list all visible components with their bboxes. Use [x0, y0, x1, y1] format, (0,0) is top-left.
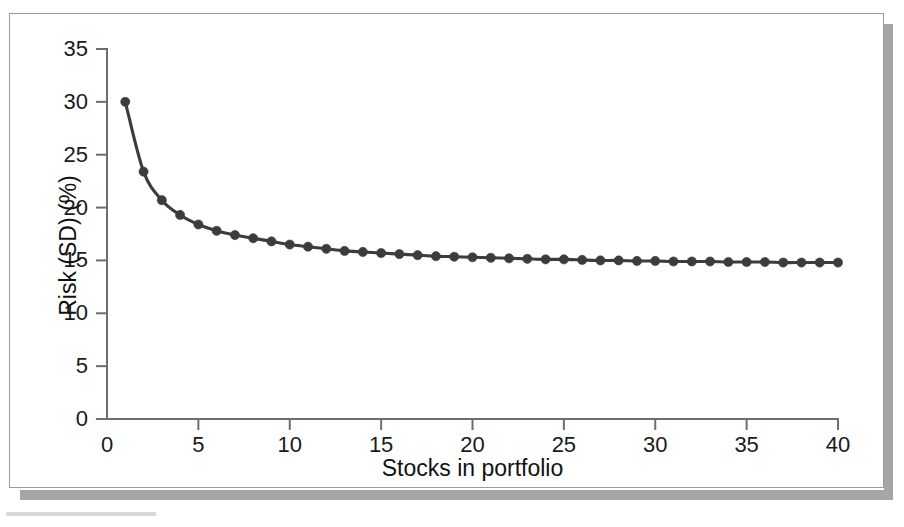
data-point: [212, 226, 221, 235]
data-point: [157, 196, 166, 205]
data-point: [705, 257, 714, 266]
data-point: [468, 253, 477, 262]
data-point: [340, 246, 349, 255]
data-point: [285, 240, 294, 249]
y-axis-title: Risk (SD) (%): [55, 116, 82, 376]
data-point: [431, 252, 440, 261]
data-point: [578, 255, 587, 264]
risk-curve-markers: [121, 97, 843, 267]
data-point: [760, 257, 769, 266]
data-point: [724, 257, 733, 266]
data-point: [779, 258, 788, 267]
y-axis-tick-label: 30: [40, 91, 88, 113]
data-point: [194, 220, 203, 229]
data-point: [377, 248, 386, 257]
data-point: [176, 210, 185, 219]
data-point: [504, 254, 513, 263]
data-point: [395, 249, 404, 258]
data-point: [614, 256, 623, 265]
y-axis-ticks: [96, 49, 107, 419]
x-axis-tick-label: 30: [625, 434, 685, 456]
data-point: [121, 97, 130, 106]
data-point: [303, 242, 312, 251]
chart-plot-area: 05101520253035 0510152025303540 Risk (SD…: [0, 0, 904, 527]
data-point: [797, 258, 806, 267]
y-axis-tick-label: 0: [40, 408, 88, 430]
data-point: [523, 254, 532, 263]
data-point: [559, 255, 568, 264]
data-point: [632, 256, 641, 265]
data-point: [651, 256, 660, 265]
data-point: [833, 258, 842, 267]
data-point: [669, 257, 678, 266]
data-point: [413, 251, 422, 260]
data-point: [687, 257, 696, 266]
data-point: [322, 244, 331, 253]
data-point: [139, 167, 148, 176]
data-point: [815, 258, 824, 267]
y-axis-tick-label: 35: [40, 38, 88, 60]
x-axis-tick-label: 10: [260, 434, 320, 456]
x-axis-tick-label: 40: [808, 434, 868, 456]
data-point: [486, 253, 495, 262]
data-point: [742, 257, 751, 266]
data-point: [541, 255, 550, 264]
data-point: [450, 252, 459, 261]
data-point: [249, 234, 258, 243]
x-axis-tick-label: 20: [443, 434, 503, 456]
x-axis-tick-label: 5: [168, 434, 228, 456]
figure-root: 05101520253035 0510152025303540 Risk (SD…: [0, 0, 904, 527]
x-axis-tick-label: 0: [77, 434, 137, 456]
data-point: [230, 230, 239, 239]
data-point: [267, 237, 276, 246]
x-axis-tick-label: 25: [534, 434, 594, 456]
data-point: [358, 247, 367, 256]
x-axis-tick-label: 35: [717, 434, 777, 456]
x-axis-title: Stocks in portfolio: [107, 455, 838, 482]
x-axis-ticks: [198, 419, 838, 430]
data-point: [596, 256, 605, 265]
x-axis-tick-label: 15: [351, 434, 411, 456]
